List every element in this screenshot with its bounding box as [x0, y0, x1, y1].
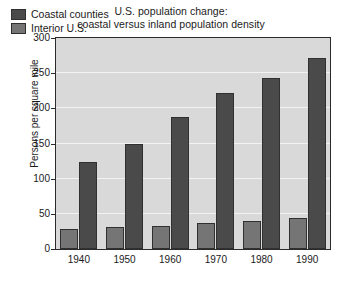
bar-group-1940 [60, 38, 97, 249]
bar-interior-1990 [289, 218, 307, 249]
y-tick-label-50: 50 [6, 208, 50, 219]
bar-interior-1950 [106, 227, 124, 249]
x-tick-label-1990: 1990 [277, 254, 337, 265]
legend-item-1: Interior U.S. [11, 22, 109, 34]
bar-interior-1970 [197, 223, 215, 249]
y-tick-label-100: 100 [6, 173, 50, 184]
y-tick-label-0: 0 [6, 243, 50, 254]
bar-interior-1940 [60, 229, 78, 249]
chart-legend: Coastal countiesInterior U.S. [11, 8, 109, 34]
bar-group-1960 [152, 38, 189, 249]
legend-label-1: Interior U.S. [31, 23, 87, 34]
bar-group-1990 [289, 38, 326, 249]
bar-coastal-1950 [125, 144, 143, 250]
legend-swatch-1 [11, 23, 26, 34]
y-tick-label-150: 150 [6, 138, 50, 149]
bar-coastal-1990 [308, 58, 326, 249]
bar-interior-1960 [152, 226, 170, 249]
bar-group-1970 [197, 38, 234, 249]
legend-swatch-0 [11, 9, 26, 20]
plot-area [55, 37, 331, 250]
bar-coastal-1940 [79, 162, 97, 249]
bar-coastal-1960 [171, 117, 189, 249]
bar-group-1950 [106, 38, 143, 249]
legend-item-0: Coastal counties [11, 8, 109, 20]
bars-layer [56, 38, 330, 249]
bar-coastal-1970 [216, 93, 234, 249]
bar-interior-1980 [243, 221, 261, 249]
y-tick-label-250: 250 [6, 67, 50, 78]
y-tick-label-200: 200 [6, 102, 50, 113]
bar-group-1980 [243, 38, 280, 249]
bar-coastal-1980 [262, 78, 280, 249]
chart-figure: U.S. population change: coastal versus i… [0, 0, 342, 288]
legend-label-0: Coastal counties [31, 9, 109, 20]
